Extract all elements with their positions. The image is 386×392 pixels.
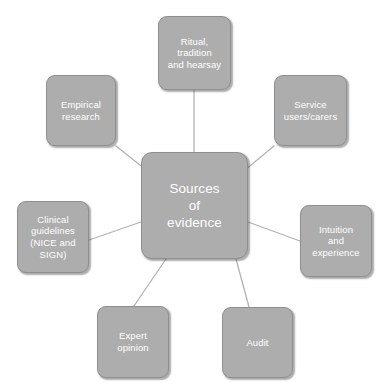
node-label: Audit <box>243 337 271 349</box>
node-expert-opinion[interactable]: Expert opinion <box>97 306 169 378</box>
node-label: Service users/carers <box>281 99 340 122</box>
node-empirical-research[interactable]: Empirical research <box>46 75 116 146</box>
node-label: Clinical guidelines (NICE and SIGN) <box>27 214 78 260</box>
node-label: Sources of evidence <box>164 180 225 232</box>
node-audit[interactable]: Audit <box>222 307 293 378</box>
node-intuition-and-experience[interactable]: Intuition and experience <box>300 205 372 277</box>
connector-center-to-service <box>245 146 274 170</box>
node-clinical-guidelines[interactable]: Clinical guidelines (NICE and SIGN) <box>17 201 89 273</box>
connector-center-to-audit <box>236 259 249 307</box>
node-label: Intuition and experience <box>309 224 362 259</box>
node-label: Expert opinion <box>114 330 151 353</box>
node-center-sources-of-evidence[interactable]: Sources of evidence <box>141 152 248 259</box>
node-label: Ritual, tradition and hearsay <box>165 36 224 71</box>
connector-center-to-clinical <box>89 222 141 240</box>
connector-center-to-expert <box>134 259 166 306</box>
node-ritual-tradition-and-hearsay[interactable]: Ritual, tradition and hearsay <box>158 16 231 90</box>
connector-center-to-intuition <box>248 222 300 241</box>
node-label: Empirical research <box>58 99 104 122</box>
node-service-users-carers[interactable]: Service users/carers <box>274 75 347 146</box>
sources-of-evidence-diagram: Sources of evidence Ritual, tradition an… <box>0 0 386 392</box>
